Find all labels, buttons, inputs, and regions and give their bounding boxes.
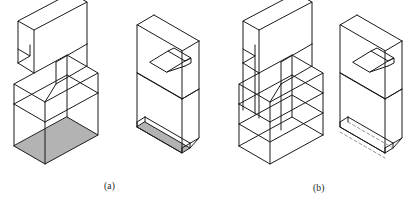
figure-background [0,0,407,210]
caption-a: (a) [104,181,115,191]
caption-b: (b) [313,183,325,193]
isometric-figure-canvas [0,0,407,210]
